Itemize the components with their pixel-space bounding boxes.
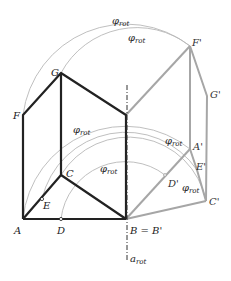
rotated-edge-B-Cprime bbox=[126, 201, 206, 219]
label-D-prime: D' bbox=[167, 178, 179, 189]
label-F: F bbox=[12, 110, 21, 121]
rotation-diagram: A D B = B' C E F G F' G' A' E' D' C' φro… bbox=[0, 0, 231, 281]
label-A-prime: A' bbox=[192, 141, 203, 152]
label-phi-rot-C: φrot bbox=[100, 163, 118, 176]
edge-A-C-B bbox=[23, 175, 126, 219]
label-D: D bbox=[56, 225, 65, 236]
rotated-edge-B-Aprime bbox=[126, 149, 190, 219]
label-G: G bbox=[51, 67, 59, 78]
point-Dprime-marker bbox=[164, 174, 167, 177]
rotation-arcs bbox=[23, 24, 206, 219]
label-A: A bbox=[13, 225, 21, 236]
label-E-prime: E' bbox=[195, 161, 206, 172]
label-phi-rot-A: φrot bbox=[165, 135, 183, 148]
original-figure bbox=[23, 73, 126, 219]
label-C: C bbox=[66, 168, 74, 179]
label-G-prime: G' bbox=[210, 89, 221, 100]
label-phi-rot-middle: φrot bbox=[73, 124, 91, 137]
label-C-prime: C' bbox=[209, 196, 219, 207]
label-phi-rot-E: φrot bbox=[182, 182, 200, 195]
label-phi-rot-inner: φrot bbox=[128, 32, 146, 45]
label-F-prime: F' bbox=[191, 37, 202, 48]
point-D-marker bbox=[59, 217, 62, 220]
label-E: E bbox=[42, 200, 51, 211]
label-B: B = B' bbox=[129, 225, 162, 236]
label-axis-rot: arot bbox=[130, 253, 147, 266]
label-phi-rot-outer: φrot bbox=[112, 15, 130, 28]
rotated-edge-B-Fprime bbox=[126, 46, 190, 115]
edge-A-F-G-H-B bbox=[23, 73, 126, 219]
